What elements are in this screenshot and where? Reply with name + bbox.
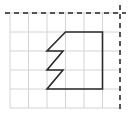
diagram-canvas [0,0,131,113]
grid-diagram [0,0,131,113]
